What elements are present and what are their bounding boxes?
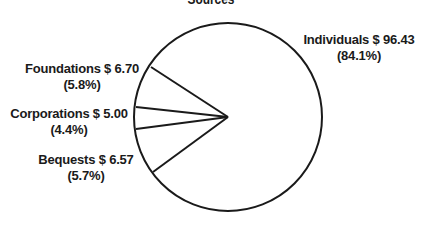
label-foundations: Foundations $ 6.70 (5.8%) (22, 61, 142, 93)
label-bequests: Bequests $ 6.57 (5.7%) (36, 152, 136, 184)
label-foundations-pct: (5.8%) (22, 77, 142, 93)
label-individuals-pct: (84.1%) (297, 48, 421, 64)
label-corporations: Corporations $ 5.00 (4.4%) (10, 106, 128, 138)
label-bequests-value: Bequests $ 6.57 (36, 152, 136, 168)
label-corporations-value: Corporations $ 5.00 (10, 106, 128, 122)
label-bequests-pct: (5.7%) (36, 168, 136, 184)
label-foundations-value: Foundations $ 6.70 (22, 61, 142, 77)
label-individuals: Individuals $ 96.43 (84.1%) (297, 32, 421, 64)
label-corporations-pct: (4.4%) (10, 122, 128, 138)
label-individuals-value: Individuals $ 96.43 (297, 32, 421, 48)
